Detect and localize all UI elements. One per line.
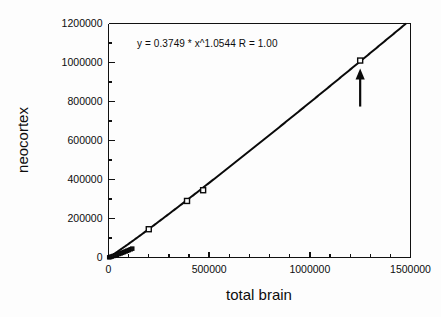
data-point-marker [146, 227, 151, 232]
y-tick-label: 800000 [67, 95, 102, 107]
y-tick-label: 600000 [67, 134, 102, 146]
arrow-head [356, 69, 365, 80]
scatter-plot: 020000040000060000080000010000001200000 … [0, 0, 441, 317]
y-axis-tick-labels: 020000040000060000080000010000001200000 [62, 17, 103, 263]
x-axis-tick-labels: 050000010000001500000 [106, 263, 432, 275]
figure-container: 020000040000060000080000010000001200000 … [0, 0, 441, 317]
y-tick-label: 0 [97, 251, 103, 263]
data-point-marker [201, 188, 206, 193]
highlight-arrow-annotation [356, 69, 365, 107]
x-tick-label: 1000000 [289, 263, 330, 275]
x-tick-label: 1500000 [390, 263, 431, 275]
data-point-marker [131, 247, 134, 250]
equation-annotation: y = 0.3749 * x^1.0544 R = 1.00 [137, 38, 278, 49]
x-axis-title: total brain [226, 286, 292, 303]
data-point-marker [358, 58, 363, 63]
major-tick-marks [109, 24, 411, 258]
x-tick-label: 500000 [192, 263, 227, 275]
axis-frame [109, 24, 411, 258]
data-point-markers [108, 58, 363, 259]
y-tick-label: 200000 [67, 212, 102, 224]
y-tick-label: 1200000 [62, 17, 103, 29]
x-tick-label: 0 [106, 263, 112, 275]
y-tick-label: 400000 [67, 173, 102, 185]
y-axis-title: neocortex [14, 107, 31, 173]
data-point-marker [185, 198, 190, 203]
y-tick-label: 1000000 [62, 56, 103, 68]
